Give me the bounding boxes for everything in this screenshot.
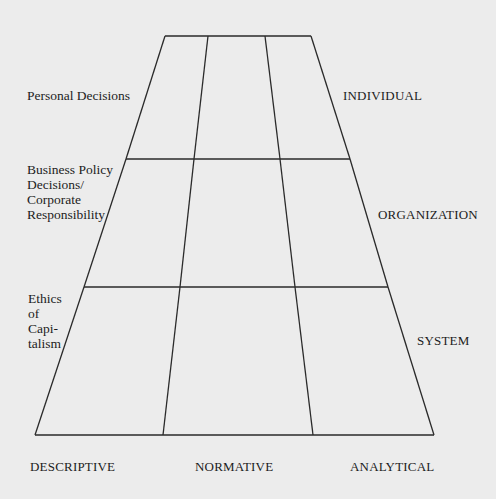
level-label-organization: ORGANIZATION	[378, 207, 478, 222]
trapezoid-diagram: Personal Decisions Business Policy Decis…	[0, 0, 496, 499]
level-label-system: SYSTEM	[417, 333, 470, 348]
row-label-ethics-of-capitalism: Ethics of Capi- talism	[28, 291, 62, 351]
label-line: Capi-	[28, 321, 62, 336]
column-label-descriptive: DESCRIPTIVE	[30, 459, 115, 474]
label-line: talism	[28, 336, 62, 351]
column-label-normative: NORMATIVE	[195, 459, 273, 474]
label-line: Ethics	[28, 291, 62, 306]
label-line: Corporate	[27, 192, 113, 207]
label-line: Responsibility	[27, 207, 113, 222]
label-line: of	[28, 306, 62, 321]
right-edge	[350, 159, 388, 287]
column-divider-0	[194, 36, 208, 159]
right-edge	[388, 287, 434, 435]
column-divider-1	[265, 36, 280, 159]
trapezoid-grid	[0, 0, 496, 499]
left-edge	[126, 36, 165, 159]
label-line: Decisions/	[27, 177, 113, 192]
label-line: Business Policy	[27, 162, 113, 177]
row-label-business-policy: Business Policy Decisions/ Corporate Res…	[27, 162, 113, 222]
label-line: Personal Decisions	[27, 88, 130, 103]
row-label-personal-decisions: Personal Decisions	[27, 88, 130, 103]
column-divider-0	[180, 159, 194, 287]
level-label-individual: INDIVIDUAL	[343, 88, 422, 103]
column-divider-1	[280, 159, 295, 287]
column-divider-1	[295, 287, 313, 435]
column-label-analytical: ANALYTICAL	[350, 459, 434, 474]
column-divider-0	[163, 287, 180, 435]
